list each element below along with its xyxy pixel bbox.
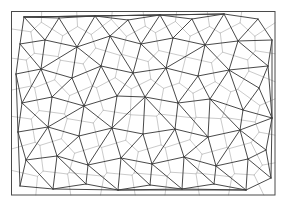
delaunay-voronoi-figure bbox=[0, 0, 286, 211]
figure-canvas bbox=[0, 0, 286, 211]
figure-background bbox=[0, 0, 286, 211]
